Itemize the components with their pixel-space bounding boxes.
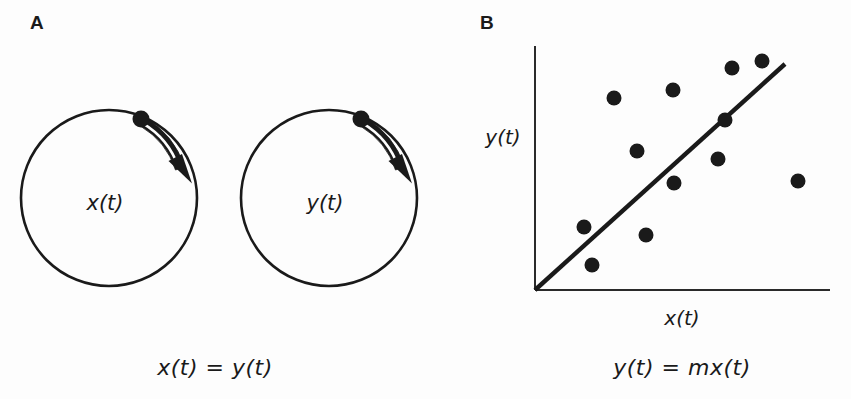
panel-b-caption: y(t) = mx(t): [613, 355, 750, 380]
scatter-point: [725, 61, 740, 76]
scatter-axes: [535, 46, 830, 290]
scatter-point: [639, 228, 654, 243]
scatter-point: [577, 220, 592, 235]
scatter-point: [607, 91, 622, 106]
oscillator-x-phase-dot: [133, 111, 150, 128]
scatter-point: [630, 144, 645, 159]
figure-root: A B: [0, 0, 851, 399]
scatter-point: [666, 83, 681, 98]
figure-vector-layer: [0, 0, 851, 399]
scatter-point: [711, 152, 726, 167]
scatter-point: [755, 54, 770, 69]
scatter-point: [791, 174, 806, 189]
oscillator-y-label: y(t): [306, 191, 343, 215]
scatter-point: [718, 113, 733, 128]
oscillator-x-label: x(t): [86, 191, 123, 215]
oscillator-y-phase-dot: [353, 111, 370, 128]
scatter-points: [577, 54, 806, 273]
x-axis-label: x(t): [664, 306, 699, 330]
y-axis-label: y(t): [485, 125, 520, 149]
panel-a-caption: x(t) = y(t): [157, 355, 273, 380]
scatter-point: [585, 258, 600, 273]
scatter-point: [667, 176, 682, 191]
fit-line: [535, 64, 785, 290]
